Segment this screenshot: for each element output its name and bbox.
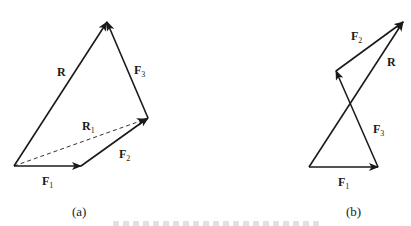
label-f1: F1 bbox=[42, 174, 53, 190]
label-r: R bbox=[387, 55, 396, 69]
vector-r bbox=[14, 22, 107, 166]
label-f3: F3 bbox=[373, 122, 384, 138]
panel-b: F2 R F3 F1 (b) bbox=[309, 22, 403, 219]
label-r: R bbox=[57, 65, 66, 79]
caption-b: (b) bbox=[346, 204, 361, 219]
vector-r bbox=[309, 22, 403, 167]
vector-f3 bbox=[336, 71, 378, 167]
label-f1: F1 bbox=[338, 175, 349, 191]
vector-addition-figure: R F3 R1 F2 F1 (a) F2 R F3 F1 (b) bbox=[0, 0, 411, 226]
panel-a: R F3 R1 F2 F1 (a) bbox=[14, 22, 148, 219]
label-r1: R1 bbox=[82, 119, 95, 135]
caption-a: (a) bbox=[72, 204, 86, 219]
label-f3: F3 bbox=[134, 63, 145, 79]
label-f2: F2 bbox=[351, 29, 362, 45]
figure-caption-cropped bbox=[113, 221, 323, 226]
label-f2: F2 bbox=[119, 147, 130, 163]
